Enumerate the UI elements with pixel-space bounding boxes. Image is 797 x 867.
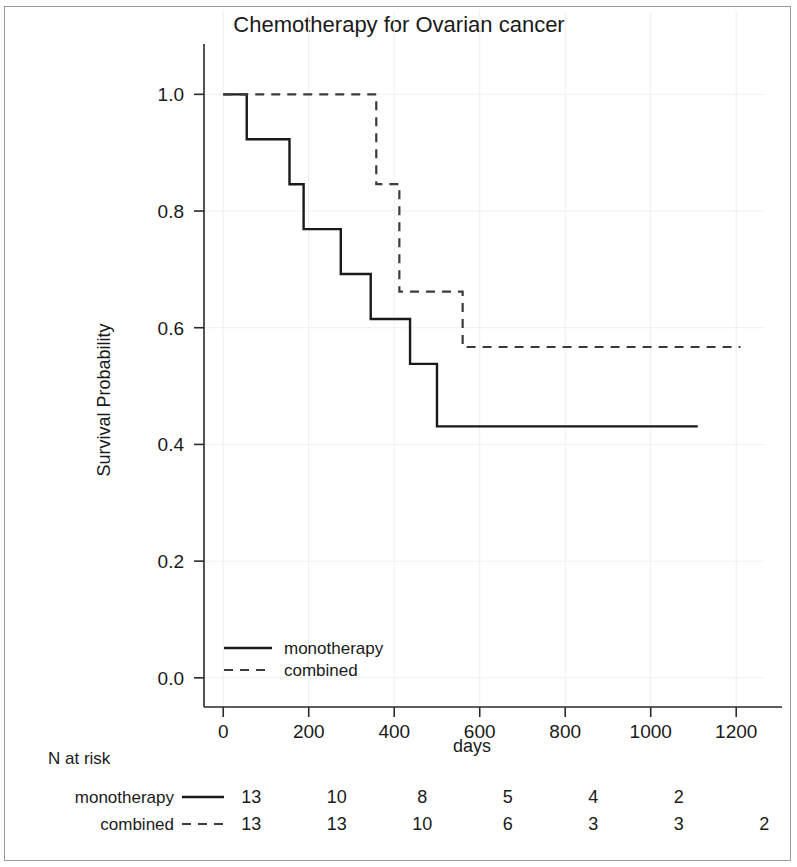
- axis-titles: days Survival Probability: [94, 323, 491, 756]
- y-axis-tick-marks: [194, 94, 204, 677]
- risk-table: N at risk monotherapy13108542combined131…: [48, 749, 769, 834]
- gridlines: [204, 11, 764, 707]
- x-axis-tick-marks: [223, 707, 736, 717]
- risk-row-label-combined: combined: [100, 815, 174, 834]
- risk-value: 13: [241, 814, 261, 834]
- risk-value: 8: [417, 787, 427, 807]
- risk-value: 13: [241, 787, 261, 807]
- risk-value: 10: [327, 787, 347, 807]
- y-axis-title: Survival Probability: [94, 323, 114, 476]
- risk-value: 2: [759, 814, 769, 834]
- chart-title: Chemotherapy for Ovarian cancer: [233, 12, 564, 37]
- risk-value: 6: [503, 814, 513, 834]
- y-tick-label: 0.8: [158, 201, 184, 222]
- risk-value: 10: [412, 814, 432, 834]
- chart-page: Chemotherapy for Ovarian cancer 02004006…: [0, 0, 797, 867]
- x-tick-label: 800: [549, 721, 581, 742]
- x-tick-label: 1200: [715, 721, 757, 742]
- chart-title-group: Chemotherapy for Ovarian cancer: [233, 12, 564, 37]
- x-tick-label: 200: [293, 721, 325, 742]
- x-tick-label: 0: [218, 721, 229, 742]
- survival-curve-combined: [223, 94, 740, 347]
- x-axis-title: days: [453, 736, 491, 756]
- risk-table-heading: N at risk: [48, 749, 111, 768]
- risk-value: 13: [327, 814, 347, 834]
- risk-row-label-monotherapy: monotherapy: [75, 788, 175, 807]
- risk-value: 4: [588, 787, 598, 807]
- risk-value: 5: [503, 787, 513, 807]
- y-tick-label: 0.2: [158, 551, 184, 572]
- chart-legend: monotherapycombined: [224, 639, 384, 680]
- survival-curves: [223, 94, 740, 426]
- y-tick-label: 0.0: [158, 668, 184, 689]
- y-tick-label: 0.4: [158, 434, 185, 455]
- risk-table-rows: monotherapy13108542combined1313106332: [75, 787, 769, 834]
- risk-value: 2: [674, 787, 684, 807]
- legend-label-monotherapy: monotherapy: [284, 639, 384, 658]
- x-tick-label: 400: [378, 721, 410, 742]
- risk-value: 3: [588, 814, 598, 834]
- survival-curve-monotherapy: [223, 94, 698, 426]
- risk-value: 3: [674, 814, 684, 834]
- y-tick-label: 1.0: [158, 84, 184, 105]
- x-tick-label: 1000: [630, 721, 672, 742]
- legend-label-combined: combined: [284, 661, 358, 680]
- kaplan-meier-chart: Chemotherapy for Ovarian cancer 02004006…: [0, 0, 797, 867]
- y-axis-tick-labels: 0.00.20.40.60.81.0: [158, 84, 185, 688]
- y-tick-label: 0.6: [158, 318, 184, 339]
